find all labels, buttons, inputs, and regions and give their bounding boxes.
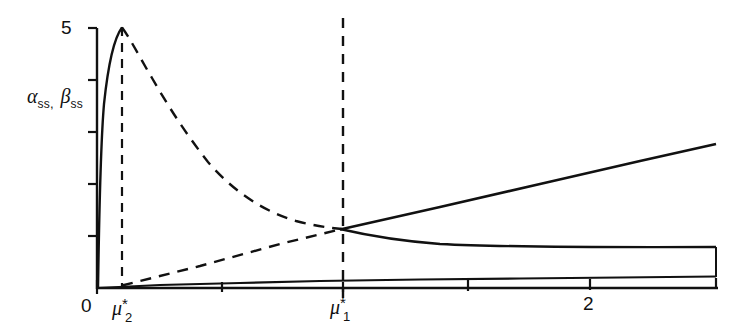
series-zero-branch-solid bbox=[98, 277, 716, 289]
axes-group bbox=[96, 28, 718, 289]
series-upper-branch-decay-dashed bbox=[122, 28, 342, 230]
bifurcation-chart-figure: 5 0 2 αss, βss μ*2 μ*1 bbox=[0, 0, 740, 330]
series-lower-branch-rise-dashed bbox=[122, 229, 342, 286]
chart-plot-area bbox=[0, 0, 740, 330]
y-axis-ticks bbox=[88, 28, 97, 236]
series-stable-upper-solid bbox=[340, 144, 716, 230]
series-upper-branch-rise-solid bbox=[98, 28, 122, 289]
series-stable-lower-solid bbox=[340, 229, 716, 247]
